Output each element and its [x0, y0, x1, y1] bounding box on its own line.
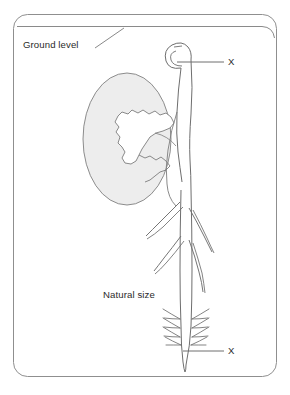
shoot-tip-notch [174, 46, 182, 47]
ground-level-leader [95, 28, 124, 48]
lateral-root-mid-left [154, 236, 181, 271]
shoot-tip-inner-curl [171, 51, 182, 66]
botanical-figure: Ground level Natural size X X [0, 0, 290, 395]
taproot-left-outline [180, 190, 183, 362]
stem-right-outline [190, 60, 192, 190]
x-top-label: X [228, 57, 234, 67]
lateral-root-mid-right-edge [193, 243, 205, 293]
ground-level-label: Ground level [23, 40, 79, 50]
bulb-lower-stem-curve [167, 184, 176, 206]
stem-left-outline [177, 68, 182, 182]
root-hairs [163, 309, 209, 345]
lateral-root-upper-left-edge [147, 207, 183, 239]
lateral-root-upper-right [189, 208, 212, 252]
lateral-root-upper-right-edge [193, 210, 214, 253]
lateral-root-mid-right [189, 240, 203, 292]
lateral-root-upper-left [146, 202, 180, 236]
taproot-right-outline [186, 190, 192, 365]
taproot-tip [183, 362, 186, 372]
figure-drawing [0, 0, 290, 395]
ground-level-line [17, 27, 275, 39]
x-bottom-label: X [228, 346, 234, 356]
natural-size-label: Natural size [103, 290, 155, 300]
